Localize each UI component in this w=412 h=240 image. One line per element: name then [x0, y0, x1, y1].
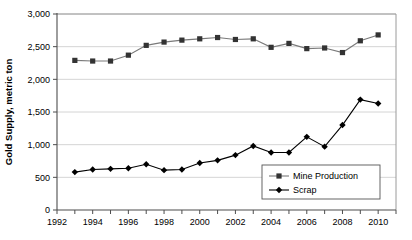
data-point-marker — [72, 169, 78, 175]
y-tick-label: 3,000 — [27, 9, 50, 19]
y-axis-title: Gold Supply, metric ton — [3, 59, 14, 166]
data-point-marker — [197, 36, 202, 41]
data-point-marker — [143, 161, 149, 167]
x-tick-label: 1994 — [83, 217, 103, 227]
data-point-marker — [89, 166, 95, 172]
x-tick-label: 2000 — [190, 217, 210, 227]
legend-box — [262, 165, 380, 199]
data-point-marker — [215, 35, 220, 40]
data-point-marker — [340, 50, 345, 55]
legend-marker — [276, 173, 281, 178]
data-point-marker — [232, 152, 238, 158]
x-tick-label: 2010 — [368, 217, 388, 227]
x-tick-label: 1996 — [118, 217, 138, 227]
data-point-marker — [126, 53, 131, 58]
y-tick-label: 2,500 — [27, 42, 50, 52]
data-point-marker — [179, 38, 184, 43]
y-tick-label: 500 — [35, 173, 50, 183]
data-point-marker — [286, 41, 291, 46]
y-tick-label: 0 — [45, 205, 50, 215]
data-point-marker — [376, 32, 381, 37]
data-point-marker — [72, 58, 77, 63]
legend-label[interactable]: Mine Production — [293, 171, 358, 181]
x-tick-label: 1998 — [154, 217, 174, 227]
data-point-marker — [233, 37, 238, 42]
gold-supply-line-chart: 05001,0001,5002,0002,5003,00019921994199… — [0, 0, 412, 240]
data-point-marker — [304, 46, 309, 51]
data-point-marker — [268, 149, 274, 155]
x-tick-label: 2008 — [332, 217, 352, 227]
chart-canvas: 05001,0001,5002,0002,5003,00019921994199… — [0, 0, 412, 240]
legend-label[interactable]: Scrap — [293, 185, 317, 195]
x-tick-label: 2006 — [297, 217, 317, 227]
data-point-marker — [125, 165, 131, 171]
data-point-marker — [90, 58, 95, 63]
data-point-marker — [161, 39, 166, 44]
data-point-marker — [179, 166, 185, 172]
chart-legend: Mine ProductionScrap — [262, 165, 380, 199]
data-point-marker — [214, 157, 220, 163]
x-tick-label: 2002 — [225, 217, 245, 227]
data-point-marker — [108, 58, 113, 63]
data-point-marker — [197, 160, 203, 166]
data-point-marker — [269, 45, 274, 50]
data-point-marker — [358, 38, 363, 43]
x-tick-label: 1992 — [47, 217, 67, 227]
data-point-marker — [144, 43, 149, 48]
data-point-marker — [107, 166, 113, 172]
y-tick-label: 1,500 — [27, 107, 50, 117]
data-point-marker — [161, 167, 167, 173]
data-point-marker — [250, 143, 256, 149]
data-point-marker — [251, 36, 256, 41]
data-point-marker — [322, 45, 327, 50]
y-tick-label: 1,000 — [27, 140, 50, 150]
data-point-marker — [375, 100, 381, 106]
x-tick-label: 2004 — [261, 217, 281, 227]
y-tick-label: 2,000 — [27, 75, 50, 85]
series-line-scrap — [75, 100, 378, 173]
series-line-mine-production — [75, 35, 378, 61]
